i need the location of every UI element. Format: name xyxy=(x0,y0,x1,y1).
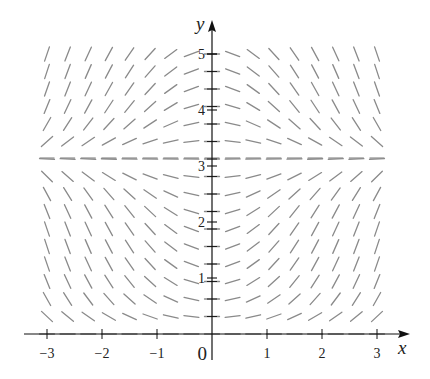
slope-segment xyxy=(312,65,319,78)
slope-segment xyxy=(290,240,298,253)
slope-segment xyxy=(225,209,239,213)
slope-segment xyxy=(373,117,380,130)
slope-segment xyxy=(289,294,300,304)
slope-segment xyxy=(184,69,198,74)
slope-segment xyxy=(123,138,137,144)
y-tick-label: 2 xyxy=(198,215,205,230)
slope-segment xyxy=(125,276,134,288)
slope-segment xyxy=(247,278,260,286)
slope-segment xyxy=(226,226,240,231)
slope-segment xyxy=(165,225,177,234)
slope-segment xyxy=(165,260,177,269)
slope-segment xyxy=(44,100,50,114)
slope-segment xyxy=(289,189,300,199)
slope-segment xyxy=(225,141,240,143)
slope-segment xyxy=(268,295,280,303)
slope-segment xyxy=(165,85,177,94)
slope-segment xyxy=(45,257,50,271)
slope-segment xyxy=(333,65,339,79)
slope-segment xyxy=(225,192,240,195)
slope-segment xyxy=(43,292,50,305)
slope-segment xyxy=(143,314,157,319)
slope-segment xyxy=(350,137,362,146)
slope-segment xyxy=(349,159,364,160)
slope-segment xyxy=(84,118,93,130)
slope-segment xyxy=(102,313,115,321)
slope-segment xyxy=(288,313,302,319)
slope-segment xyxy=(311,100,319,113)
origin-label: 0 xyxy=(198,343,208,364)
slope-segment xyxy=(104,118,114,129)
slope-segment xyxy=(163,140,178,143)
slope-segment xyxy=(40,159,55,160)
slope-segment xyxy=(226,51,240,56)
slope-field-chart: −3−2−1123123450xy xyxy=(0,0,430,379)
slope-segment xyxy=(65,239,70,253)
y-axis-label: y xyxy=(194,13,205,34)
slope-segment xyxy=(246,140,261,143)
slope-segment xyxy=(288,138,302,144)
slope-segment xyxy=(125,65,133,78)
slope-segment xyxy=(374,205,380,219)
slope-segment xyxy=(269,223,279,234)
slope-segment xyxy=(353,205,359,219)
slope-segment xyxy=(225,297,240,300)
slope-segment xyxy=(290,258,299,270)
slope-segment xyxy=(164,208,177,216)
slope-segment xyxy=(374,100,380,114)
slope-segment xyxy=(268,101,279,111)
slope-segment xyxy=(145,258,155,269)
slope-segment xyxy=(225,279,239,283)
slope-segment xyxy=(375,47,380,61)
slope-segment xyxy=(312,257,319,270)
slope-segment xyxy=(309,173,322,181)
slope-segment xyxy=(45,47,50,61)
slope-segment xyxy=(125,101,135,113)
slope-segment xyxy=(82,137,94,145)
slope-segment xyxy=(184,226,198,231)
slope-segment xyxy=(371,137,382,147)
slope-segment xyxy=(64,205,70,219)
slope-segment xyxy=(184,86,198,91)
slope-segment xyxy=(62,137,74,146)
slope-segment xyxy=(267,174,281,179)
slope-segment xyxy=(290,48,298,60)
slope-segment xyxy=(309,313,322,321)
y-tick-label: 3 xyxy=(198,159,205,174)
slope-segment xyxy=(44,275,50,289)
x-tick-label: 3 xyxy=(374,346,381,361)
slope-segment xyxy=(288,173,301,180)
slope-segment xyxy=(64,293,72,306)
slope-segment xyxy=(184,297,199,300)
slope-segment xyxy=(60,159,75,160)
slope-segment xyxy=(184,51,198,56)
slope-segment xyxy=(225,122,240,125)
slope-segment xyxy=(290,101,300,113)
slope-segment xyxy=(332,205,339,218)
slope-segment xyxy=(85,47,91,61)
slope-segment xyxy=(145,83,155,94)
slope-segment xyxy=(290,276,299,288)
slope-segment xyxy=(310,118,320,129)
slope-segment xyxy=(311,205,319,218)
slope-segment xyxy=(268,190,280,198)
slope-segment xyxy=(44,205,50,219)
slope-segment xyxy=(269,83,279,94)
slope-segment xyxy=(310,293,320,304)
slope-segment xyxy=(105,222,112,235)
slope-segment xyxy=(247,242,259,251)
slope-segment xyxy=(62,172,73,182)
slope-segment xyxy=(123,313,137,319)
slope-segment xyxy=(333,257,339,271)
y-tick-label: 5 xyxy=(198,47,205,62)
slope-segment xyxy=(125,223,133,235)
slope-segment xyxy=(165,50,177,59)
x-axis-label: x xyxy=(397,337,407,358)
slope-segment xyxy=(164,191,178,197)
slope-segment xyxy=(81,159,96,160)
slope-segment xyxy=(124,189,135,199)
axis-labels: −3−2−1123123450xy xyxy=(40,13,407,364)
slope-segment xyxy=(375,239,380,253)
slope-segment xyxy=(85,82,91,96)
slope-segment xyxy=(184,141,199,143)
